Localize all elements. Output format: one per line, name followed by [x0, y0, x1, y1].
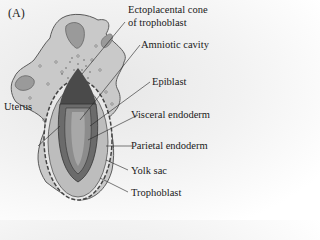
label-ectoplacental-cone-1: Ectoplacental cone — [128, 4, 208, 15]
label-uterus: Uterus — [4, 101, 32, 112]
label-ectoplacental-cone-2: of trophoblast — [128, 17, 187, 28]
label-amniotic-cavity: Amniotic cavity — [141, 39, 209, 50]
label-trophoblast: Trophoblast — [131, 187, 181, 198]
label-parietal-endoderm: Parietal endoderm — [131, 140, 208, 151]
label-visceral-endoderm: Visceral endoderm — [131, 109, 210, 120]
label-yolk-sac: Yolk sac — [131, 165, 167, 176]
label-epiblast: Epiblast — [152, 76, 186, 87]
